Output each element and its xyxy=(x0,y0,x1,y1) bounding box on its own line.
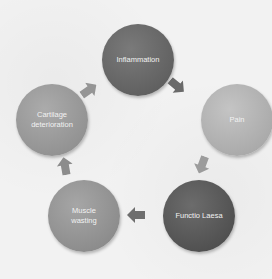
node-muscle-wasting: Muscle wasting xyxy=(48,180,120,252)
node-label-line-1: Muscle xyxy=(71,206,96,216)
node-label: Pain xyxy=(223,115,250,125)
node-label: Functio Laesa xyxy=(169,211,228,221)
arrow-left-icon xyxy=(127,207,145,223)
node-pain: Pain xyxy=(201,84,272,156)
node-label-line-2: wasting xyxy=(71,216,96,226)
node-functio-laesa: Functio Laesa xyxy=(163,180,235,252)
node-inflammation: Inflammation xyxy=(102,24,174,96)
node-label-line-2: deterioration xyxy=(31,120,73,130)
node-label: Inflammation xyxy=(111,55,166,65)
arrow-up-icon xyxy=(56,156,75,177)
node-cartilage-deterioration: Cartilage deterioration xyxy=(16,84,88,156)
node-label-line-1: Cartilage xyxy=(31,110,73,120)
